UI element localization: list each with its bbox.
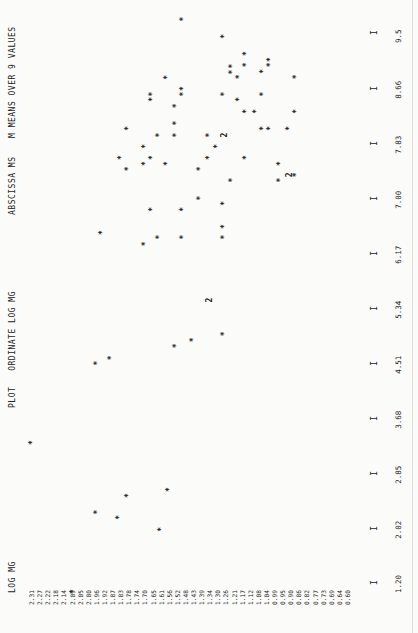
data-point: * bbox=[116, 513, 124, 521]
x-tick-mark: I bbox=[370, 141, 379, 146]
x-tick-label: 2.85 bbox=[394, 466, 403, 484]
data-point: * bbox=[229, 62, 237, 70]
x-tick-label: 7.00 bbox=[394, 191, 403, 209]
x-tick-label: 1.20 bbox=[394, 575, 403, 593]
data-point-multiple: 2 bbox=[221, 131, 229, 139]
data-point: * bbox=[180, 205, 188, 213]
data-point: * bbox=[180, 15, 188, 23]
data-point: * bbox=[236, 95, 244, 103]
data-point: * bbox=[277, 176, 285, 184]
data-point: * bbox=[94, 508, 102, 516]
x-tick-mark: I bbox=[370, 306, 379, 311]
data-point: * bbox=[236, 73, 244, 81]
data-point-multiple: 2 bbox=[206, 296, 214, 304]
data-point: * bbox=[156, 233, 164, 241]
data-point: * bbox=[293, 171, 301, 179]
x-tick-label: 5.34 bbox=[394, 301, 403, 319]
x-tick-label: 2.02 bbox=[394, 521, 403, 539]
rotated-plot-canvas: LOG MG PLOT ORDINATE LOG MG ABSCISSA MS … bbox=[0, 0, 418, 633]
data-point: * bbox=[164, 73, 172, 81]
data-point: * bbox=[260, 90, 268, 98]
page-edge-rule bbox=[412, 0, 413, 633]
data-point: * bbox=[99, 228, 107, 236]
x-tick-label: 8.66 bbox=[394, 81, 403, 99]
data-point: * bbox=[243, 107, 251, 115]
x-tick-mark: I bbox=[370, 30, 379, 35]
data-point: * bbox=[108, 354, 116, 362]
x-tick-label: 7.83 bbox=[394, 136, 403, 154]
data-point: * bbox=[180, 85, 188, 93]
data-point: * bbox=[190, 336, 198, 344]
x-tick-mark: I bbox=[370, 526, 379, 531]
data-point: * bbox=[164, 160, 172, 168]
data-point: * bbox=[70, 588, 78, 596]
data-point: * bbox=[221, 223, 229, 231]
x-tick-mark: I bbox=[370, 196, 379, 201]
data-point: * bbox=[142, 240, 150, 248]
x-tick-label: 4.51 bbox=[394, 356, 403, 374]
data-point: * bbox=[277, 160, 285, 168]
data-point: * bbox=[293, 107, 301, 115]
x-tick-mark: I bbox=[370, 471, 379, 476]
data-point: * bbox=[173, 131, 181, 139]
data-point: * bbox=[221, 233, 229, 241]
data-point: * bbox=[293, 73, 301, 81]
data-point: * bbox=[94, 359, 102, 367]
data-point: * bbox=[173, 342, 181, 350]
data-point: * bbox=[29, 439, 37, 447]
data-point: * bbox=[267, 124, 275, 132]
data-point: * bbox=[197, 194, 205, 202]
data-point: * bbox=[267, 56, 275, 64]
data-point: * bbox=[286, 124, 294, 132]
data-point: * bbox=[142, 142, 150, 150]
data-point: * bbox=[125, 492, 133, 500]
data-point: * bbox=[243, 61, 251, 69]
data-point: * bbox=[149, 154, 157, 162]
x-tick-mark: I bbox=[370, 361, 379, 366]
page: LOG MG PLOT ORDINATE LOG MG ABSCISSA MS … bbox=[0, 0, 418, 633]
data-point: * bbox=[156, 131, 164, 139]
data-point: * bbox=[221, 90, 229, 98]
data-point: * bbox=[214, 142, 222, 150]
data-point: * bbox=[243, 50, 251, 58]
data-point: * bbox=[221, 330, 229, 338]
x-tick-mark: I bbox=[370, 580, 379, 585]
data-point: * bbox=[206, 154, 214, 162]
data-point: * bbox=[173, 119, 181, 127]
data-point: * bbox=[243, 154, 251, 162]
data-point: * bbox=[180, 233, 188, 241]
data-point: * bbox=[206, 131, 214, 139]
data-point: * bbox=[118, 154, 126, 162]
x-tick-label: 6.17 bbox=[394, 246, 403, 264]
data-point: * bbox=[125, 124, 133, 132]
data-point: * bbox=[221, 32, 229, 40]
data-point: * bbox=[158, 525, 166, 533]
data-point: * bbox=[173, 102, 181, 110]
data-point: * bbox=[149, 205, 157, 213]
data-point: * bbox=[166, 486, 174, 494]
data-point: * bbox=[197, 165, 205, 173]
x-tick-mark: I bbox=[370, 251, 379, 256]
data-point: * bbox=[229, 176, 237, 184]
data-point: * bbox=[221, 199, 229, 207]
x-tick-label: 9.5 bbox=[394, 29, 403, 43]
x-tick-label: 3.68 bbox=[394, 411, 403, 429]
data-point: * bbox=[253, 107, 261, 115]
x-tick-mark: I bbox=[370, 86, 379, 91]
data-point: * bbox=[125, 165, 133, 173]
data-point: * bbox=[149, 90, 157, 98]
scatter-plot-area: I1.20I2.02I2.85I3.68I4.51I5.34I6.17I7.00… bbox=[0, 0, 418, 633]
x-tick-mark: I bbox=[370, 416, 379, 421]
